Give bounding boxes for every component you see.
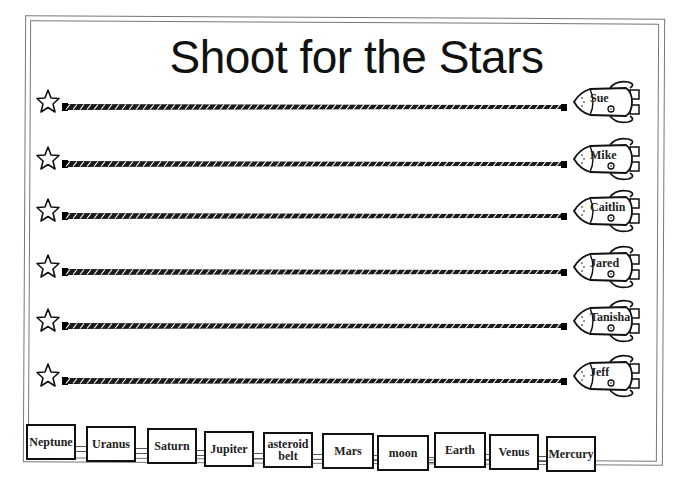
student-name: Tanisha [590,310,636,325]
rope-track [62,371,567,379]
planet-connector [197,450,204,456]
rope-track [62,316,567,324]
planet-box: Mercury [546,436,596,472]
student-row: Tanisha [0,307,678,347]
student-row: Mike [0,145,678,185]
student-name: Sue [590,91,636,106]
planet-box: Uranus [86,426,136,462]
student-row: Jared [0,253,678,293]
planet-box: asteroid belt [263,432,313,468]
planet-box: Mars [322,433,374,469]
star-outline-icon [35,253,61,279]
student-row: Sue [0,88,678,128]
star-outline-icon [35,197,61,223]
rope-track [62,97,567,105]
student-name: Mike [590,148,636,163]
star-outline-icon [35,145,61,171]
page-title: Shoot for the Stars [0,30,678,84]
student-name: Jeff [590,365,636,380]
student-name: Jared [590,256,636,271]
planet-connector [539,456,546,462]
planet-connector [136,448,147,454]
rope-track [62,262,567,270]
rope-track [62,154,567,162]
planet-connector [76,446,86,452]
planet-connector [254,453,263,459]
planet-box: Jupiter [204,431,254,467]
planet-connector [313,454,322,460]
planet-box: Saturn [147,428,197,464]
planet-track: NeptuneUranusSaturnJupiterasteroid beltM… [0,420,678,480]
student-row: Caitlin [0,197,678,237]
star-outline-icon [35,88,61,114]
planet-box: Earth [434,432,486,468]
star-outline-icon [35,307,61,333]
planet-box: Venus [489,434,539,470]
star-outline-icon [35,362,61,388]
planet-box: moon [377,435,429,471]
planet-box: Neptune [26,424,76,460]
student-name: Caitlin [590,200,636,215]
rope-track [62,206,567,214]
student-row: Jeff [0,362,678,402]
